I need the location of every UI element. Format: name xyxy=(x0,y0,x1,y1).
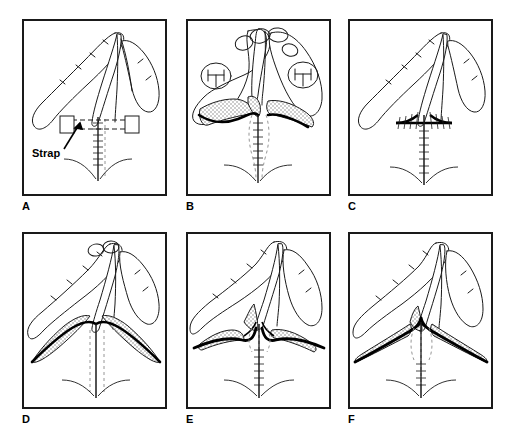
nail-plate-left xyxy=(201,63,231,89)
panel-b-illustration xyxy=(186,19,331,196)
strap-annotation-label: Strap xyxy=(32,147,60,159)
panel-e-illustration xyxy=(186,232,331,409)
panel-d-illustration xyxy=(22,232,167,409)
panel-d xyxy=(22,232,167,409)
panel-label-a: A xyxy=(22,200,30,212)
panel-f xyxy=(348,232,493,409)
figure-container: Strap A xyxy=(0,0,511,433)
dashed-midline xyxy=(90,330,104,392)
panel-label-f: F xyxy=(348,413,355,425)
panel-f-illustration xyxy=(348,232,493,409)
panel-a-illustration xyxy=(22,19,167,196)
panel-b xyxy=(186,19,331,196)
panel-c-illustration xyxy=(348,19,493,196)
panel-label-d: D xyxy=(22,413,30,425)
panel-label-e: E xyxy=(186,413,194,425)
panel-label-b: B xyxy=(186,200,194,212)
panel-a: Strap xyxy=(22,19,167,196)
panel-e xyxy=(186,232,331,409)
panel-label-c: C xyxy=(348,200,356,212)
dashed-midline xyxy=(249,115,269,179)
panel-c xyxy=(348,19,493,196)
